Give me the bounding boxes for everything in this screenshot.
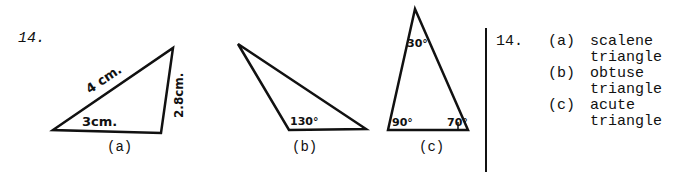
answer-letter-c: (c) [548,98,590,130]
answer-row-b: (b) obtuse triangle [496,66,690,98]
answer-b-line1: obtuse [590,65,644,82]
answer-text-a: scalene triangle [590,34,690,66]
label-angle-top-c: 30° [407,37,428,50]
problem-number: 14. [18,31,45,47]
answer-number: 14. [496,34,548,66]
caption-c: (c) [419,139,444,155]
answer-c-line1: acute [590,97,635,114]
caption-a: (a) [107,139,132,155]
answer-c-line2: triangle [590,113,662,130]
answer-a-line2: triangle [590,49,662,66]
caption-b: (b) [292,139,317,155]
answer-text-b: obtuse triangle [590,66,690,98]
answer-row-c: (c) acute triangle [496,98,690,130]
label-angle-right-c: 70° [447,116,468,129]
label-angle-left-c: 90° [392,116,413,129]
triangle-c [388,9,468,130]
answer-letter-b: (b) [548,66,590,98]
answer-a-line1: scalene [590,33,653,50]
answer-row-a: 14. (a) scalene triangle [496,34,690,66]
answer-key: 14. (a) scalene triangle (b) obtuse tria… [496,34,690,130]
label-angle-b: 130° [290,115,318,128]
answer-text-c: acute triangle [590,98,690,130]
answer-letter-a: (a) [548,34,590,66]
label-side-base: 3cm. [82,114,117,129]
label-side-right: 2.8cm. [172,73,186,118]
answer-b-line2: triangle [590,81,662,98]
